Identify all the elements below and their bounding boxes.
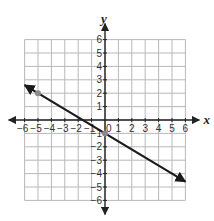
y-tick-label: −2 bbox=[91, 141, 103, 152]
data-point bbox=[35, 90, 41, 96]
y-tick-label: −5 bbox=[91, 182, 103, 193]
x-tick-label: 4 bbox=[156, 123, 162, 134]
x-tick-label: −3 bbox=[57, 123, 69, 134]
x-tick-label: 3 bbox=[142, 123, 148, 134]
y-tick-label: 3 bbox=[96, 74, 102, 85]
x-axis-label: x bbox=[202, 112, 210, 127]
y-axis-label: y bbox=[99, 11, 107, 26]
x-tick-label: 6 bbox=[183, 123, 189, 134]
x-tick-label: −5 bbox=[30, 123, 42, 134]
y-tick-label: 1 bbox=[96, 101, 102, 112]
x-tick-label: −6 bbox=[17, 123, 29, 134]
x-tick-label: −4 bbox=[44, 123, 56, 134]
axes bbox=[9, 24, 200, 215]
x-tick-label: −2 bbox=[70, 123, 82, 134]
y-tick-label: −6 bbox=[91, 195, 103, 206]
data-point bbox=[102, 130, 108, 136]
x-tick-label: 5 bbox=[169, 123, 175, 134]
y-tick-label: 4 bbox=[96, 61, 102, 72]
y-tick-label: 2 bbox=[96, 88, 102, 99]
x-tick-label: 2 bbox=[129, 123, 135, 134]
y-tick-label: 6 bbox=[96, 34, 102, 45]
y-tick-label: −4 bbox=[91, 168, 103, 179]
y-tick-label: 5 bbox=[96, 48, 102, 59]
coordinate-plane: −6−5−4−3−2−1123456654321−1−2−3−4−5−60 x … bbox=[0, 0, 214, 221]
x-tick-label: 1 bbox=[116, 123, 122, 134]
y-tick-label: −3 bbox=[91, 155, 103, 166]
